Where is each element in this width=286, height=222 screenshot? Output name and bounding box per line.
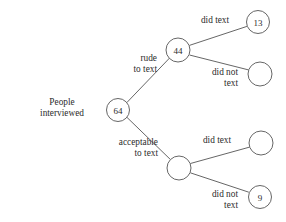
root-caption-line2: interviewed	[18, 108, 106, 119]
branch-label-rude-line1: rude	[95, 53, 157, 64]
branch-label-acceptable-line2: to text	[88, 148, 158, 159]
branch-label-acceptable: acceptable to text	[88, 137, 158, 159]
edge-acceptable-to-did	[190, 147, 249, 163]
branch-label-rude: rude to text	[95, 53, 157, 75]
node-value-root: 64	[114, 106, 124, 116]
branch-label-rude-did-not: did not text	[186, 67, 238, 89]
root-caption: People interviewed	[18, 97, 106, 119]
branch-label-rude-did-not-line2: text	[186, 78, 238, 89]
branch-label-acc-did-not-line1: did not	[186, 189, 238, 200]
root-caption-line1: People	[18, 97, 106, 108]
node-rude-didnot[interactable]	[248, 62, 272, 86]
node-acceptable[interactable]	[167, 156, 191, 180]
branch-label-acc-did-line1: did text	[192, 135, 242, 146]
branch-label-rude-did-not-line1: did not	[186, 67, 238, 78]
tree-diagram-canvas: 64 44 13 9 People interviewed rude to te…	[0, 0, 286, 222]
node-group	[107, 11, 274, 209]
branch-label-acceptable-line1: acceptable	[88, 137, 158, 148]
edge-rude-to-did	[189, 26, 247, 45]
branch-label-rude-line2: to text	[95, 64, 157, 75]
branch-label-acc-did-not: did not text	[186, 189, 238, 211]
node-value-rude: 44	[174, 46, 184, 56]
branch-label-rude-did-line1: did text	[190, 15, 240, 26]
branch-label-acc-did: did text	[192, 135, 242, 146]
branch-label-rude-did: did text	[190, 15, 240, 26]
node-acc-did[interactable]	[249, 131, 273, 155]
branch-label-acc-did-not-line2: text	[186, 200, 238, 211]
node-value-acc-didnot: 9	[258, 193, 263, 203]
node-value-rude-did: 13	[254, 18, 264, 28]
